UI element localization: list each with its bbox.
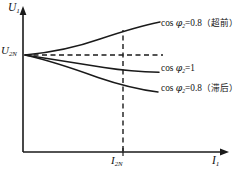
x-tick-label-sub: 2N	[115, 160, 123, 167]
curve-label-leading-prefix: cos	[161, 18, 176, 28]
curve-label-lagging: cos φ2=0.8（滞后）	[161, 83, 238, 93]
curve-label-leading-cjk: （超前）	[202, 18, 238, 28]
curve-label-leading: cos φ2=0.8（超前）	[161, 18, 238, 28]
y-axis-label: U1	[8, 2, 20, 14]
y-intercept-label: U2N	[1, 45, 17, 56]
x-axis-arrow-icon	[220, 149, 229, 156]
curve-label-unity-value: =1	[185, 63, 195, 73]
y-intercept-label-main: U	[1, 44, 9, 56]
curve-label-lagging-value: =0.8	[185, 83, 202, 93]
chart-figure: U1 U2N I1 I2N cos φ2=0.8（超前） cos φ2=1 co…	[0, 0, 243, 175]
curve-label-leading-sub: 2	[182, 23, 185, 29]
y-axis-arrow-icon	[20, 6, 27, 15]
y-intercept-label-sub: 2N	[9, 50, 17, 57]
x-axis-label: I1	[212, 155, 219, 167]
curve-unity-power-factor	[25, 55, 159, 72]
curve-label-lagging-sub: 2	[182, 88, 185, 94]
x-tick-label-i2n: I2N	[111, 155, 123, 166]
curve-label-lagging-cjk: （滞后）	[202, 83, 238, 93]
curve-label-lagging-prefix: cos	[161, 83, 176, 93]
curve-label-unity-prefix: cos	[161, 63, 176, 73]
curve-leading-power-factor	[25, 22, 160, 55]
curve-lagging-power-factor	[25, 55, 158, 92]
curve-label-unity-sub: 2	[182, 68, 185, 74]
curve-label-leading-value: =0.8	[185, 18, 202, 28]
y-axis-label-sub: 1	[16, 7, 20, 15]
curve-label-unity: cos φ2=1	[161, 63, 195, 73]
x-axis-label-sub: 1	[216, 160, 220, 168]
